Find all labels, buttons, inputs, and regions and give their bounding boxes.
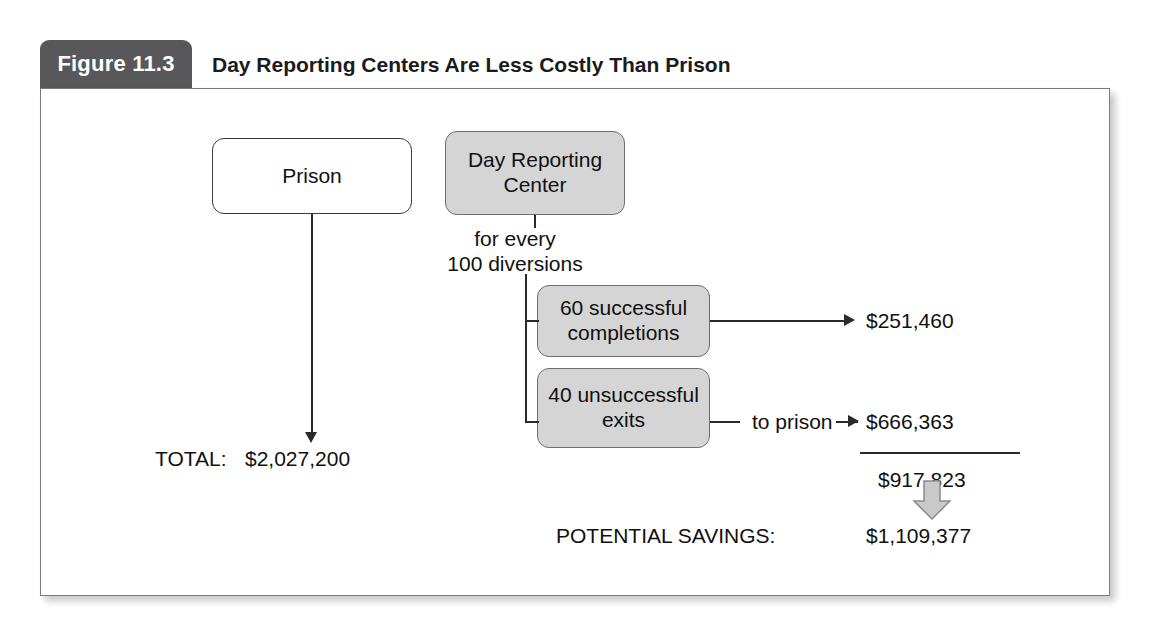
connector-branch-to-unsuccessful [525, 421, 539, 423]
figure-header: Figure 11.3 Day Reporting Centers Are Le… [40, 40, 1110, 90]
figure-number-tab: Figure 11.3 [40, 40, 192, 90]
connector-branch-trunk [525, 274, 527, 422]
to-prison-label: to prison [752, 409, 833, 434]
connector-drc-to-annotation [534, 215, 536, 228]
prison-total-value: $2,027,200 [245, 446, 350, 471]
node-prison: Prison [212, 138, 412, 214]
subtotal-rule [860, 452, 1020, 454]
for-every-annotation: for every 100 diversions [425, 226, 605, 276]
arrow-unsuccessful-to-cost-head [848, 415, 859, 427]
prison-total-label: TOTAL: [155, 446, 227, 471]
node-successful-completions: 60 successful completions [537, 285, 710, 357]
figure-title: Day Reporting Centers Are Less Costly Th… [212, 40, 731, 93]
for-every-line2: 100 diversions [425, 251, 605, 276]
connector-prison-to-total [311, 214, 313, 434]
node-successful-completions-line2: completions [567, 321, 679, 346]
connector-branch-to-successful [525, 320, 539, 322]
node-unsuccessful-exits: 40 unsuccessful exits [537, 368, 710, 448]
arrow-prison-to-total-head [305, 432, 317, 443]
value-unsuccessful-cost: $666,363 [866, 409, 954, 434]
node-day-reporting-center-label-line1: Day Reporting [468, 148, 602, 173]
connector-successful-to-cost [710, 320, 846, 322]
node-unsuccessful-exits-line1: 40 unsuccessful [548, 383, 699, 408]
node-day-reporting-center-label-line2: Center [503, 173, 566, 198]
potential-savings-value: $1,109,377 [866, 523, 971, 548]
for-every-line1: for every [425, 226, 605, 251]
connector-unsuccessful-to-label [710, 421, 740, 423]
node-prison-label: Prison [282, 164, 342, 189]
node-day-reporting-center: Day Reporting Center [445, 131, 625, 215]
down-block-arrow-icon [911, 479, 953, 521]
potential-savings-label: POTENTIAL SAVINGS: [556, 523, 775, 548]
arrow-successful-to-cost-head [844, 314, 855, 326]
node-successful-completions-line1: 60 successful [560, 296, 687, 321]
value-successful-cost: $251,460 [866, 308, 954, 333]
node-unsuccessful-exits-line2: exits [602, 408, 645, 433]
